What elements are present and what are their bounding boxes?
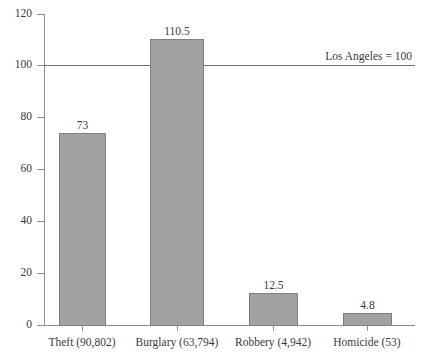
y-tick-label-120: 120 [0,8,32,20]
y-tick-mark-120 [37,14,44,15]
y-tick-label-40: 40 [0,215,32,227]
reference-line-los-angeles [44,65,415,66]
bar-value-homicide: 4.8 [343,299,392,311]
y-axis-line [44,14,45,325]
x-tick-mark-theft [82,325,83,331]
y-tick-label-80: 80 [0,111,32,123]
reference-line-label: Los Angeles = 100 [300,50,412,62]
x-tick-mark-robbery [273,325,274,331]
bar-value-theft: 73 [59,119,106,131]
bar-value-robbery: 12.5 [249,279,298,291]
bar-robbery [249,293,298,326]
bar-chart: 120 100 80 60 40 20 0 Los Angeles = 100 … [0,0,422,358]
y-tick-mark-100 [37,65,44,66]
y-tick-mark-40 [37,221,44,222]
bar-theft [59,133,106,326]
y-tick-label-100: 100 [0,59,32,71]
y-tick-mark-0 [37,325,44,326]
x-tick-mark-homicide [367,325,368,331]
y-tick-label-20: 20 [0,267,32,279]
x-tick-mark-burglary [177,325,178,331]
y-tick-mark-20 [37,273,44,274]
x-axis-label-homicide: Homicide (53) [312,336,422,349]
y-tick-label-60: 60 [0,163,32,175]
bar-value-burglary: 110.5 [150,25,204,37]
y-tick-label-0: 0 [0,319,32,331]
y-tick-mark-60 [37,169,44,170]
bar-burglary [150,39,204,326]
y-tick-mark-80 [37,117,44,118]
